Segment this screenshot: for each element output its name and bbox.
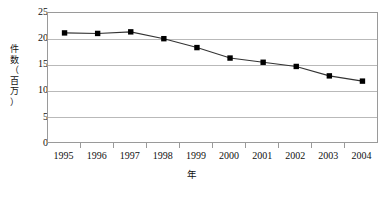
line-chart: 件 数 （ 百 万 ） 25 20 15 10 5 0: [0, 0, 383, 200]
data-point: [161, 36, 166, 41]
y-tick-label: 10: [24, 85, 48, 95]
y-tick-label: 15: [24, 59, 48, 69]
x-tick-mark: [113, 143, 114, 148]
y-axis-title-char: ）: [6, 97, 22, 108]
y-axis-title-char: 数: [6, 55, 22, 66]
x-tick-mark: [278, 143, 279, 148]
data-point: [294, 64, 299, 69]
x-tick-mark: [344, 143, 345, 148]
data-point: [227, 55, 232, 60]
data-point: [194, 45, 199, 50]
x-tick-mark: [179, 143, 180, 148]
y-tick-label: 0: [24, 138, 48, 148]
data-point: [128, 29, 133, 34]
y-tick-label: 5: [24, 112, 48, 122]
x-tick-mark: [146, 143, 147, 148]
y-axis-title-char: （: [6, 65, 22, 76]
data-point: [62, 30, 67, 35]
data-point: [260, 60, 265, 65]
y-tick-label: 25: [24, 7, 48, 17]
x-tick-mark: [311, 143, 312, 148]
data-point: [95, 31, 100, 36]
series-line: [48, 13, 379, 144]
y-tick-label: 20: [24, 33, 48, 43]
x-axis-title: 年: [0, 169, 383, 181]
x-tick-mark: [212, 143, 213, 148]
y-axis-title-char: 件: [6, 44, 22, 55]
x-tick-label: 2004: [341, 150, 381, 162]
x-tick-mark: [80, 143, 81, 148]
y-axis-title-char: 百: [6, 76, 22, 87]
y-axis-title: 件 数 （ 百 万 ）: [6, 44, 22, 107]
plot-area: [47, 12, 378, 143]
series-markers: [62, 29, 365, 84]
series-polyline: [65, 32, 363, 81]
x-tick-mark: [245, 143, 246, 148]
data-point: [327, 73, 332, 78]
y-axis-title-char: 万: [6, 86, 22, 97]
data-point: [360, 78, 365, 83]
x-axis-tick-labels: 1995199619971998199920002001200220032004: [47, 150, 378, 164]
